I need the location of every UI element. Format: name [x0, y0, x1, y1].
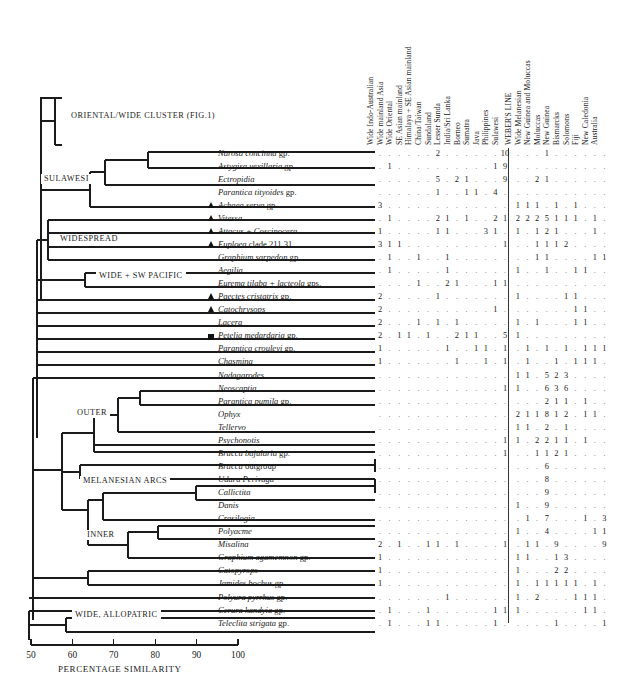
- axis-tick-label: 90: [182, 650, 212, 660]
- axis-tick-label: 50: [16, 650, 46, 660]
- axis-tick-label: 80: [140, 650, 170, 660]
- axis-tick-label: 70: [99, 650, 129, 660]
- axis-tick-label: 100: [223, 650, 253, 660]
- similarity-axis: [0, 0, 623, 683]
- axis-tick-label: 60: [57, 650, 87, 660]
- axis-title: PERCENTAGE SIMILARITY: [58, 664, 182, 674]
